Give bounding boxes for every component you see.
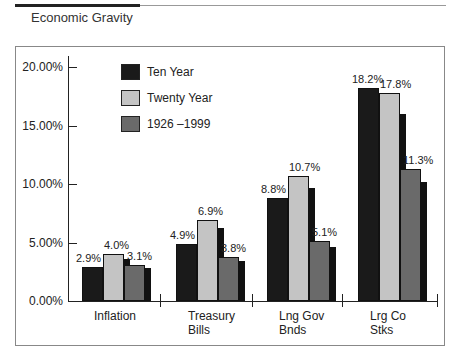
y-tick-label: 20.00% <box>3 60 63 74</box>
x-tick <box>252 294 253 307</box>
bar-1 <box>288 176 309 301</box>
value-label: 3.1% <box>127 250 152 262</box>
x-label-line: Bnds <box>279 323 324 337</box>
chart-title: Economic Gravity <box>31 10 133 25</box>
y-tick <box>68 243 77 244</box>
value-label: 2.9% <box>76 252 101 264</box>
value-label: 10.7% <box>289 161 320 173</box>
legend-swatch <box>121 90 140 106</box>
value-label: 4.0% <box>104 239 129 251</box>
legend-label: Ten Year <box>147 65 194 79</box>
bar-0 <box>82 267 103 301</box>
y-axis <box>68 56 69 302</box>
value-label: 6.9% <box>198 205 223 217</box>
x-label-line: Treasury <box>188 309 235 323</box>
legend-swatch <box>121 64 140 80</box>
y-tick-label: 15.00% <box>3 119 63 133</box>
bar-1 <box>103 254 124 301</box>
value-label: 18.2% <box>352 73 383 85</box>
y-tick-label: 0.00% <box>3 294 63 308</box>
y-tick <box>68 67 77 68</box>
value-label: 8.8% <box>261 183 286 195</box>
x-tick <box>437 294 438 307</box>
bar-2 <box>309 241 330 301</box>
legend-swatch <box>121 116 140 132</box>
value-label: 4.9% <box>170 229 195 241</box>
x-category-label: Lng GovBnds <box>279 309 324 337</box>
value-label: 5.1% <box>312 226 337 238</box>
x-label-line: Inflation <box>94 309 136 323</box>
bar-2 <box>218 257 239 301</box>
x-label-line: Bills <box>188 323 235 337</box>
legend-label: 1926 –1999 <box>147 117 210 131</box>
x-tick <box>342 294 343 307</box>
x-category-label: TreasuryBills <box>188 309 235 337</box>
legend-label: Twenty Year <box>147 91 212 105</box>
y-tick <box>68 301 77 302</box>
y-tick <box>68 184 77 185</box>
x-label-line: Lng Gov <box>279 309 324 323</box>
x-tick <box>160 294 161 307</box>
value-label: 11.3% <box>403 154 433 166</box>
x-category-label: Inflation <box>94 309 136 323</box>
bar-2 <box>400 169 421 301</box>
x-axis <box>68 301 438 302</box>
bar-0 <box>176 244 197 301</box>
value-label: 3.8% <box>221 242 246 254</box>
y-tick-label: 10.00% <box>3 177 63 191</box>
x-category-label: Lrg CoStks <box>370 309 406 337</box>
header-accent-rule <box>15 4 140 7</box>
value-label: 17.8% <box>380 78 411 90</box>
x-label-line: Stks <box>370 323 406 337</box>
x-label-line: Lrg Co <box>370 309 406 323</box>
y-tick <box>68 126 77 127</box>
y-tick-label: 5.00% <box>3 236 63 250</box>
bar-0 <box>267 198 288 301</box>
bar-2 <box>124 265 145 301</box>
bar-1 <box>197 220 218 301</box>
bar-1 <box>379 93 400 301</box>
bar-0 <box>358 88 379 301</box>
